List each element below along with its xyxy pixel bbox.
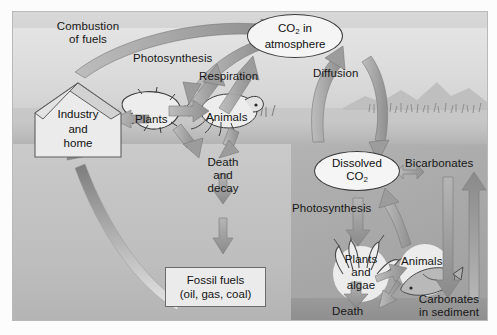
bicarbonates-label: Bicarbonates: [405, 157, 473, 170]
diagram-canvas: Industry and home CO2 inatmosphere Disso…: [13, 12, 487, 320]
arrow-carbonates-down: [436, 177, 460, 298]
carbon-cycle-figure: Industry and home CO2 inatmosphere Disso…: [0, 0, 497, 335]
dissolved-co2-node[interactable]: DissolvedCO2: [314, 151, 400, 191]
respiration-label: Respiration: [199, 70, 258, 83]
plants-and-algae-label: Plants and algae: [331, 253, 391, 292]
industry-home-label: Industry and home: [29, 107, 127, 151]
combustion-of-fuels-label: Combustion of fuels: [43, 20, 133, 46]
animals-water-label: Animals: [401, 255, 443, 268]
industry-and-home-node[interactable]: Industry and home: [29, 81, 127, 159]
animals-land-label: Animals: [206, 111, 248, 124]
arrow-diffusion-down: [362, 56, 388, 142]
dissolved-co2-label: DissolvedCO2: [332, 157, 382, 186]
fossil-fuels-node[interactable]: Fossil fuels (oil, gas, coal): [165, 267, 266, 307]
carbonates-in-sediment-label: Carbonates in sediment: [409, 293, 487, 319]
death-and-decay-label: Death and decay: [193, 156, 253, 195]
photosynthesis-land-label: Photosynthesis: [133, 52, 212, 65]
arrow-carbonates-up: [462, 172, 486, 298]
diffusion-label: Diffusion: [313, 67, 358, 80]
death-water-label: Death: [332, 305, 363, 318]
arrow-decay-down-2: [213, 218, 233, 254]
photosynthesis-water-label: Photosynthesis: [292, 202, 371, 215]
co2-atmosphere-label: CO2 inatmosphere: [265, 22, 326, 51]
arrow-water-animals-head: [379, 188, 399, 208]
co2-atmosphere-node[interactable]: CO2 inatmosphere: [247, 14, 343, 58]
plants-land-label: Plants: [135, 113, 168, 126]
